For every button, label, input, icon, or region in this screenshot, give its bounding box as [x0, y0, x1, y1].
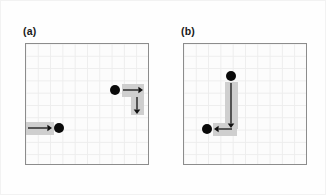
panel-b-dot-top	[226, 71, 236, 81]
panel-a-dot-lower-left	[54, 123, 64, 133]
panel-a-label: (a)	[23, 25, 36, 37]
arrow-down-upper	[127, 87, 147, 124]
panel-b-grid	[183, 43, 307, 165]
panel-b-label: (b)	[181, 25, 195, 37]
figure-canvas: (a)(b)	[0, 0, 326, 195]
panel-a-grid	[25, 43, 149, 165]
panel-a-dot-upper-right	[110, 85, 120, 95]
panel-b-dot-lower-left	[202, 124, 212, 134]
